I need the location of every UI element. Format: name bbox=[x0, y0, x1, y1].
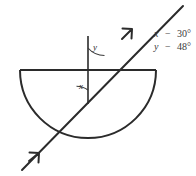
value-line-x-value: 30° bbox=[177, 28, 191, 39]
value-line-x-variable: x bbox=[153, 28, 159, 39]
value-line-y-separator: − bbox=[165, 41, 171, 52]
value-line-y: y − 48° bbox=[153, 41, 191, 52]
value-line-x-separator: − bbox=[165, 28, 171, 39]
value-line-y-value: 48° bbox=[177, 41, 191, 52]
angle-label-x: x bbox=[78, 81, 83, 91]
incident-ray-arrow bbox=[29, 153, 39, 163]
angle-label-y: y bbox=[92, 42, 97, 52]
value-line-y-variable: y bbox=[153, 41, 159, 52]
emergent-ray-arrow bbox=[122, 29, 132, 40]
optics-diagram-canvas: x y x − 30° y − 48° bbox=[0, 0, 196, 176]
optics-diagram: x y x − 30° y − 48° bbox=[0, 0, 196, 176]
value-line-x: x − 30° bbox=[153, 28, 191, 39]
